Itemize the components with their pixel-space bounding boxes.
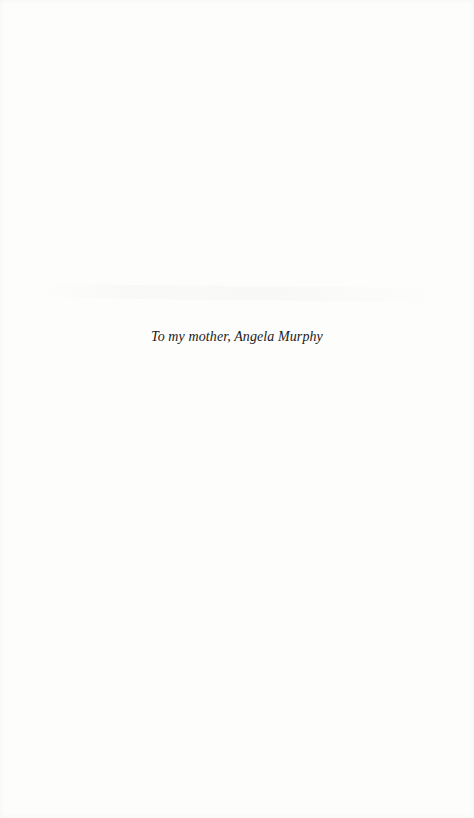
book-page: To my mother, Angela Murphy <box>0 0 474 818</box>
show-through-artifact <box>40 284 440 302</box>
dedication-text: To my mother, Angela Murphy <box>0 328 474 346</box>
